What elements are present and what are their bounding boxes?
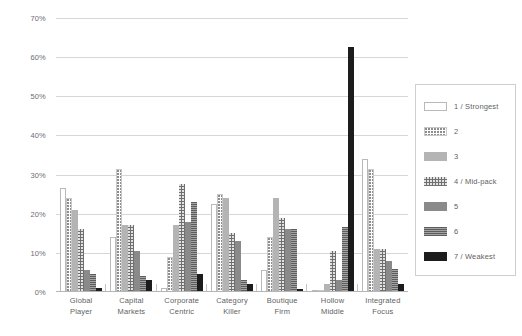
bar-group: [157, 18, 207, 292]
x-axis-category-label-line: Boutique: [257, 296, 307, 307]
legend-swatch: [424, 202, 447, 211]
y-axis-tick-label: 70%: [30, 14, 46, 23]
bar: [197, 274, 203, 292]
bar-group: [257, 18, 307, 292]
x-axis-category-label-line: Firm: [257, 307, 307, 318]
y-axis-tick-label: 50%: [30, 92, 46, 101]
legend-label: 5: [454, 202, 458, 211]
x-axis-category-label-line: Centric: [157, 307, 207, 318]
legend-label: 3: [454, 152, 458, 161]
bar-group: [56, 18, 106, 292]
legend-item[interactable]: 5: [424, 194, 515, 219]
y-axis-tick-label: 10%: [30, 248, 46, 257]
x-axis-category-label: BoutiqueFirm: [257, 296, 307, 317]
bar-group: [358, 18, 408, 292]
legend-swatch: [424, 177, 447, 186]
bar-groups: [56, 18, 408, 292]
x-axis-category-label-line: Integrated: [358, 296, 408, 307]
legend-item[interactable]: 4 / Mid-pack: [424, 169, 515, 194]
x-axis-category-label-line: Hollow: [307, 296, 357, 307]
x-axis-line: [56, 291, 408, 292]
x-axis-category-label: HollowMiddle: [307, 296, 357, 317]
legend-swatch: [424, 227, 447, 236]
x-axis-category-label-line: Global: [56, 296, 106, 307]
legend-item[interactable]: 2: [424, 119, 515, 144]
legend-label: 6: [454, 227, 458, 236]
chart-legend: 1 / Strongest234 / Mid-pack567 / Weakest: [415, 84, 516, 276]
bar-group: [106, 18, 156, 292]
x-axis-category-label-line: Capital: [106, 296, 156, 307]
legend-swatch: [424, 102, 447, 111]
legend-item[interactable]: 1 / Strongest: [424, 94, 515, 119]
legend-swatch: [424, 252, 447, 261]
y-axis-tick-label: 20%: [30, 209, 46, 218]
legend-label: 1 / Strongest: [454, 102, 498, 111]
legend-item[interactable]: 3: [424, 144, 515, 169]
y-axis-tick-label: 40%: [30, 131, 46, 140]
x-axis-category-label: CorporateCentric: [157, 296, 207, 317]
x-axis-category-label-line: Category: [207, 296, 257, 307]
y-axis-tick-label: 60%: [30, 53, 46, 62]
x-axis-category-label: GlobalPlayer: [56, 296, 106, 317]
legend-swatch: [424, 127, 447, 136]
x-axis-category-label-line: Markets: [106, 307, 156, 318]
x-axis-category-label-line: Killer: [207, 307, 257, 318]
legend-item[interactable]: 7 / Weakest: [424, 244, 515, 269]
x-axis-labels: GlobalPlayerCapitalMarketsCorporateCentr…: [56, 296, 408, 317]
bar: [348, 47, 354, 292]
bar-chart: 0%10%20%30%40%50%60%70% GlobalPlayerCapi…: [0, 0, 522, 336]
x-axis-category-label-line: Corporate: [157, 296, 207, 307]
x-axis-category-label: CapitalMarkets: [106, 296, 156, 317]
y-axis: 0%10%20%30%40%50%60%70%: [0, 18, 52, 292]
bar-group: [307, 18, 357, 292]
x-axis-category-label: CategoryKiller: [207, 296, 257, 317]
x-axis-category-label-line: Focus: [358, 307, 408, 318]
x-axis-category-label-line: Player: [56, 307, 106, 318]
legend-item[interactable]: 6: [424, 219, 515, 244]
bar-group: [207, 18, 257, 292]
y-axis-tick-label: 30%: [30, 170, 46, 179]
x-axis-category-label-line: Middle: [307, 307, 357, 318]
legend-label: 7 / Weakest: [454, 252, 495, 261]
legend-label: 4 / Mid-pack: [454, 177, 497, 186]
y-axis-tick-label: 0%: [35, 288, 46, 297]
x-axis-category-label: IntegratedFocus: [358, 296, 408, 317]
plot-area: [56, 18, 408, 292]
legend-swatch: [424, 152, 447, 161]
legend-label: 2: [454, 127, 458, 136]
bar: [291, 229, 297, 292]
